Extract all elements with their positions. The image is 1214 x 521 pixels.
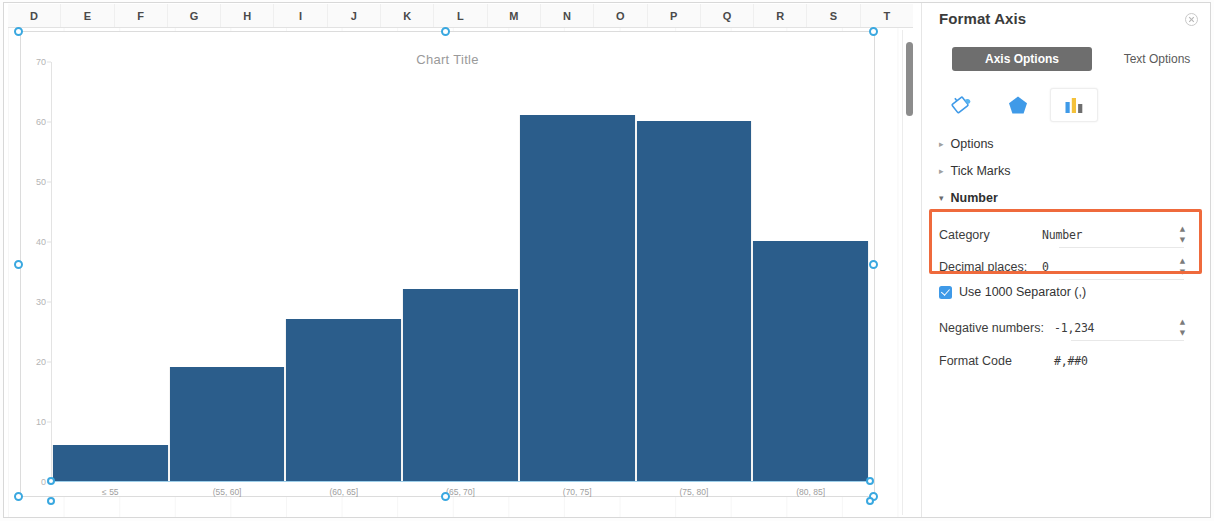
decimal-places-stepper[interactable]: ▲ ▼ (1178, 258, 1187, 276)
use-1000-separator-row[interactable]: Use 1000 Separator (,) (939, 285, 1086, 299)
column-header-o[interactable]: O (594, 4, 647, 27)
chart-object[interactable]: Chart Title 010203040506070 ≤ 55(55, 60]… (20, 31, 875, 497)
y-axis-tick-0: 0 (41, 477, 46, 487)
column-header-i[interactable]: I (274, 4, 327, 27)
column-header-h[interactable]: H (221, 4, 274, 27)
axis-chart-icon[interactable] (1050, 88, 1098, 122)
axis-handle-bottom-left[interactable] (47, 497, 55, 505)
chart-handle-bottom-center[interactable] (441, 492, 450, 501)
vertical-scrollbar-thumb[interactable] (906, 42, 913, 116)
category-underline (1059, 247, 1184, 248)
decimal-places-value[interactable]: 0 (1042, 260, 1197, 274)
bar-series[interactable] (52, 62, 869, 481)
chart-handle-mid-right[interactable] (869, 260, 878, 269)
column-header-q[interactable]: Q (701, 4, 754, 27)
chart-handle-mid-left[interactable] (14, 260, 23, 269)
negative-numbers-stepper[interactable]: ▲ ▼ (1178, 319, 1187, 337)
chevron-down-icon: ▾ (939, 193, 944, 203)
chart-handle-bottom-left[interactable] (14, 492, 23, 501)
chart-handle-top-center[interactable] (441, 27, 450, 36)
column-header-j[interactable]: J (328, 4, 381, 27)
column-header-k[interactable]: K (381, 4, 434, 27)
bar[interactable] (402, 289, 519, 481)
column-header-n[interactable]: N (541, 4, 594, 27)
negative-numbers-value[interactable]: -1,234 (1054, 321, 1197, 335)
bar-slot (52, 62, 169, 481)
bar-slot (636, 62, 753, 481)
x-axis-category-labels[interactable]: ≤ 55(55, 60](60, 65](65, 70](70, 75](75,… (52, 484, 869, 500)
column-header-s[interactable]: S (807, 4, 860, 27)
axis-handle-right[interactable] (866, 477, 874, 485)
stepper-up-icon: ▲ (1180, 258, 1185, 265)
pane-tab-bar: Axis Options Text Options (938, 47, 1194, 71)
fill-bucket-icon[interactable] (938, 88, 986, 122)
y-axis-tick-10: 10 (36, 417, 46, 427)
stepper-up-icon: ▲ (1180, 319, 1185, 326)
close-icon[interactable] (1185, 13, 1198, 26)
plot-area[interactable]: 010203040506070 (51, 62, 869, 482)
column-header-t[interactable]: T (861, 4, 913, 27)
bar[interactable] (285, 319, 402, 481)
vertical-scrollbar[interactable] (902, 30, 914, 515)
x-axis-category-label: (55, 60] (169, 484, 286, 500)
pane-title: Format Axis (939, 10, 1026, 27)
tab-text-options[interactable]: Text Options (1102, 47, 1212, 71)
x-axis-category-label: (60, 65] (285, 484, 402, 500)
y-axis-tick-20: 20 (36, 357, 46, 367)
axis-selection-line (51, 481, 870, 482)
bar[interactable] (636, 121, 753, 481)
section-number[interactable]: ▾ Number (939, 191, 1194, 205)
stepper-up-icon: ▲ (1180, 226, 1185, 233)
y-axis-tickmark-10 (47, 422, 51, 423)
decimal-places-row[interactable]: Decimal places: 0 ▲ ▼ (939, 252, 1197, 282)
chart-handle-top-right[interactable] (869, 27, 878, 36)
tab-axis-options[interactable]: Axis Options (952, 47, 1092, 71)
bar-slot (519, 62, 636, 481)
column-header-e[interactable]: E (61, 4, 114, 27)
bar-slot (752, 62, 869, 481)
effects-pentagon-icon[interactable] (994, 88, 1042, 122)
chart-handle-top-left[interactable] (14, 27, 23, 36)
bar-slot (402, 62, 519, 481)
column-header-f[interactable]: F (115, 4, 168, 27)
stepper-down-icon: ▼ (1180, 330, 1185, 337)
axis-handle-bottom-right[interactable] (866, 497, 874, 505)
chevron-right-icon: ▸ (939, 166, 944, 176)
x-axis-category-label: ≤ 55 (52, 484, 169, 500)
category-label: Category (939, 228, 1042, 242)
negative-numbers-label: Negative numbers: (939, 321, 1054, 335)
category-value[interactable]: Number (1042, 228, 1197, 242)
y-axis-tickmark-70 (47, 62, 51, 63)
checkbox-checked-icon[interactable] (939, 286, 952, 299)
column-header-r[interactable]: R (754, 4, 807, 27)
y-axis-tickmark-50 (47, 182, 51, 183)
column-header-d[interactable]: D (8, 4, 61, 27)
decimal-places-underline (1059, 279, 1184, 280)
axis-handle-left[interactable] (47, 477, 55, 485)
bar[interactable] (52, 445, 169, 481)
column-header-g[interactable]: G (168, 4, 221, 27)
y-axis-tickmark-60 (47, 122, 51, 123)
column-header-band: DEFGHIJKLMNOPQRST (8, 4, 913, 28)
bar[interactable] (169, 367, 286, 481)
negative-numbers-underline (1071, 340, 1184, 341)
bar[interactable] (752, 241, 869, 481)
section-options[interactable]: ▸ Options (939, 137, 1194, 151)
section-options-label: Options (951, 137, 994, 151)
category-stepper[interactable]: ▲ ▼ (1178, 226, 1187, 244)
category-row[interactable]: Category Number ▲ ▼ (939, 220, 1197, 250)
chevron-right-icon: ▸ (939, 139, 944, 149)
y-axis-tickmark-20 (47, 362, 51, 363)
format-code-value[interactable]: #,##0 (1054, 354, 1197, 368)
column-header-m[interactable]: M (488, 4, 541, 27)
x-axis-category-label: (65, 70] (402, 484, 519, 500)
negative-numbers-row[interactable]: Negative numbers: -1,234 ▲ ▼ (939, 313, 1197, 343)
section-tick-marks[interactable]: ▸ Tick Marks (939, 164, 1194, 178)
y-axis-tick-30: 30 (36, 297, 46, 307)
column-header-p[interactable]: P (648, 4, 701, 27)
y-axis-tick-70: 70 (36, 57, 46, 67)
worksheet-area[interactable]: Chart Title 010203040506070 ≤ 55(55, 60]… (8, 28, 913, 517)
bar[interactable] (519, 115, 636, 481)
column-header-l[interactable]: L (434, 4, 487, 27)
format-code-row[interactable]: Format Code #,##0 (939, 346, 1197, 376)
